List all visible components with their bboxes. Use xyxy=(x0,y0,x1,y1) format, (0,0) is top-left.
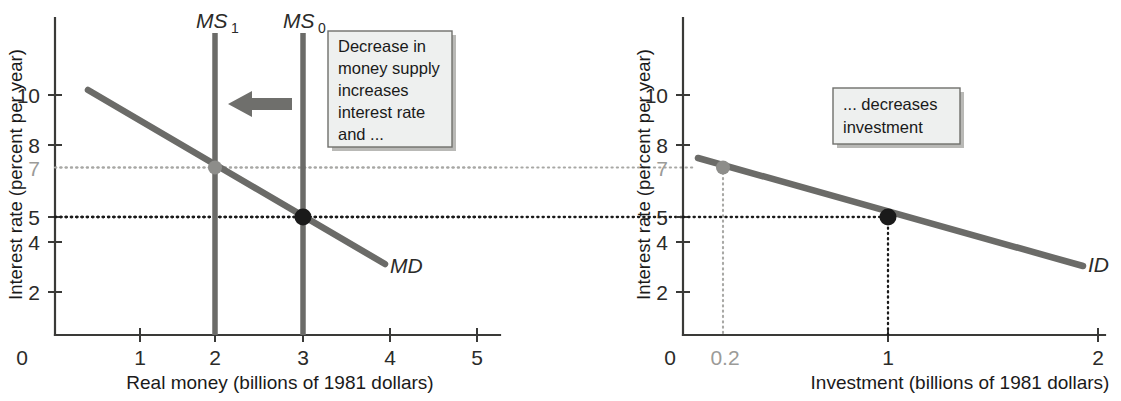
callout-money-supply-line-2: money supply xyxy=(338,59,441,77)
money-supply-new-label: MS 1 xyxy=(196,9,239,36)
callout-investment: ... decreases investment xyxy=(833,88,964,148)
right-y-label-2: 2 xyxy=(656,281,668,304)
left-y-label-7: 7 xyxy=(28,157,40,180)
right-x-label-0-2: 0.2 xyxy=(710,346,739,369)
right-y-label-4: 4 xyxy=(656,231,668,254)
left-y-label-8: 8 xyxy=(28,134,40,157)
right-point-original-investment xyxy=(880,209,897,226)
callout-money-supply-line-5: and ... xyxy=(338,125,384,143)
left-x-label-5: 5 xyxy=(471,346,483,369)
ms1-label-sub: 1 xyxy=(231,20,239,36)
left-x-label-2: 2 xyxy=(209,346,221,369)
left-y-label-10: 10 xyxy=(17,84,40,107)
right-y-label-5: 5 xyxy=(656,206,668,229)
left-y-label-2: 2 xyxy=(28,281,40,304)
callout-money-supply-line-4: interest rate xyxy=(338,103,425,121)
ms0-label-text: MS xyxy=(283,9,315,32)
right-x-label-2: 2 xyxy=(1092,346,1104,369)
callout-money-supply-line-3: increases xyxy=(338,81,409,99)
left-x-label-4: 4 xyxy=(384,346,396,369)
economics-figure: Interest rate (percent per year) 10 8 7 … xyxy=(0,0,1121,401)
shift-left-arrow-shape xyxy=(228,91,292,117)
right-y-label-7: 7 xyxy=(656,157,668,180)
left-point-original-equilibrium xyxy=(295,209,312,226)
right-guides xyxy=(683,168,888,336)
right-x-label-1: 1 xyxy=(882,346,894,369)
left-x-axis-title: Real money (billions of 1981 dollars) xyxy=(126,372,433,393)
ms1-label-text: MS xyxy=(196,9,228,32)
money-demand-label: MD xyxy=(390,254,423,277)
right-panel-investment-demand: Interest rate (percent per year) 10 8 7 … xyxy=(633,18,1109,393)
left-x-label-1: 1 xyxy=(134,346,146,369)
left-y-label-4: 4 xyxy=(28,231,40,254)
callout-investment-line-2: investment xyxy=(843,118,923,136)
callout-investment-line-1: ... decreases xyxy=(843,95,937,113)
callout-money-supply: Decrease in money supply increases inter… xyxy=(328,31,456,151)
left-y-label-5: 5 xyxy=(28,206,40,229)
right-point-new-investment xyxy=(716,161,730,175)
investment-demand-label: ID xyxy=(1088,253,1109,276)
left-panel-money-market: Interest rate (percent per year) 10 8 7 … xyxy=(5,9,500,393)
right-y-label-10: 10 xyxy=(645,84,668,107)
right-x-axis-title: Investment (billions of 1981 dollars) xyxy=(811,372,1110,393)
callout-money-supply-line-1: Decrease in xyxy=(338,37,426,55)
left-point-new-equilibrium xyxy=(208,161,222,175)
left-guides xyxy=(55,168,500,218)
right-x-tick-labels: 0 0.2 1 2 xyxy=(664,346,1104,369)
ms0-label-sub: 0 xyxy=(318,20,326,36)
right-x-label-0: 0 xyxy=(664,346,676,369)
money-supply-original-label: MS 0 xyxy=(283,9,326,36)
cross-panel-guides xyxy=(55,168,695,218)
shift-left-arrow xyxy=(228,91,292,117)
right-y-label-8: 8 xyxy=(656,134,668,157)
left-x-label-3: 3 xyxy=(297,346,309,369)
left-x-tick-labels: 0 1 2 3 4 5 xyxy=(16,346,483,369)
left-x-label-0: 0 xyxy=(16,346,28,369)
